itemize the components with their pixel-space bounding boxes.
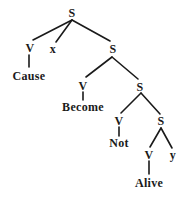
node-s-4: S	[158, 115, 165, 127]
edge-s3-s4	[141, 93, 160, 114]
node-v-become: V	[79, 80, 88, 92]
node-v-cause: V	[26, 42, 35, 54]
leaf-cause: Cause	[13, 70, 46, 82]
edge-s2-s3	[112, 57, 138, 79]
node-x: x	[50, 43, 56, 55]
node-s-3: S	[137, 81, 144, 93]
leaf-alive: Alive	[135, 177, 163, 189]
node-v-not: V	[115, 115, 124, 127]
node-v-alive: V	[145, 149, 154, 161]
edge-s4-y	[161, 128, 172, 148]
node-s-2: S	[110, 43, 117, 55]
syntax-tree-diagram: S V x Cause S V Become S V Not S V y Ali…	[0, 0, 185, 203]
edge-s3-v3	[121, 93, 141, 113]
edge-s2-v2	[86, 57, 112, 77]
node-y: y	[170, 149, 176, 161]
edge-s1-v1	[33, 20, 72, 40]
edge-s1-s2	[72, 20, 110, 41]
leaf-not: Not	[109, 137, 129, 149]
edge-s4-v4	[150, 128, 161, 147]
node-s-root: S	[69, 7, 76, 19]
leaf-become: Become	[62, 101, 104, 113]
